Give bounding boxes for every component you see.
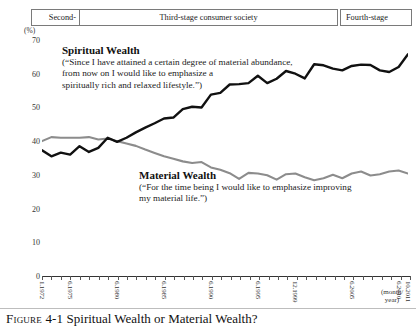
stage-label-second: Second- [49,13,76,22]
x-axis-label-1-1972: 1.1972 [38,281,46,299]
x-axis-tick [202,276,203,280]
x-axis-tick [287,276,288,280]
material-wealth-title: Material Wealth [139,169,352,182]
x-axis-tick [410,276,411,280]
x-axis-tick [325,276,326,280]
y-axis-tick-50: 50 [18,103,40,112]
spiritual-wealth-quote-line3: spiritually rich and relaxed lifestyle.”… [62,80,293,91]
x-axis-labels: 1.19726.19756.19806.19856.19906.199512.1… [42,281,412,309]
x-axis-tick [184,276,185,280]
x-axis-tick [363,276,364,280]
x-axis-tick [372,276,373,280]
x-axis-tick [297,276,298,280]
x-axis-label-12-1999: 12.1999 [291,281,299,302]
x-axis-tick [127,276,128,280]
x-axis-unit-line1: (month/ [370,288,414,296]
x-axis-unit-line2: year) [370,296,414,304]
x-axis-tick [165,276,166,280]
spiritual-wealth-quote-line1: (“Since I have attained a certain degree… [62,57,293,68]
x-axis-tick [212,276,213,280]
x-axis-tick [306,276,307,280]
x-axis-tick [401,276,402,280]
x-axis-tick [391,276,392,280]
x-axis-tick [353,276,354,280]
x-axis-tick [146,276,147,280]
y-axis-tick-10: 10 [18,238,40,247]
x-axis-tick [42,276,43,280]
x-axis-label-6-1985: 6.1985 [160,281,168,299]
x-axis-tick [89,276,90,280]
x-axis-tick [70,276,71,280]
stage-box-second: Second- [31,9,79,26]
material-wealth-quote-line1: (“For the time being I would like to emp… [139,182,352,193]
y-axis-tick-20: 20 [18,204,40,213]
x-axis-tick [382,276,383,280]
x-axis-label-6-1980: 6.1980 [113,281,121,299]
x-axis-label-6-2005: 6.2005 [348,281,356,299]
x-axis-tick [316,276,317,280]
y-axis-ticks: 706050403020100 [14,40,40,276]
y-axis-tick-30: 30 [18,170,40,179]
y-axis-tick-40: 40 [18,137,40,146]
x-axis-tick [155,276,156,280]
x-axis-tick [51,276,52,280]
x-axis-tick [80,276,81,280]
annotation-material-wealth: Material Wealth (“For the time being I w… [139,169,352,205]
y-axis-tick-0: 0 [18,272,40,281]
x-axis-tick [174,276,175,280]
stage-label-third: Third-stage consumer society [159,13,257,22]
figure-caption: Figure 4-1 Spiritual Wealth or Material … [6,311,258,327]
x-axis-tick [231,276,232,280]
spiritual-wealth-title: Spiritual Wealth [62,44,293,57]
x-axis-tick [259,276,260,280]
figure-container: Second- Third-stage consumer society Fou… [0,0,416,336]
stage-label-fourth: Fourth-stage [346,13,388,22]
x-axis-tick [269,276,270,280]
stage-box-fourth: Fourth-stage [340,9,412,26]
x-axis-tick [250,276,251,280]
material-wealth-quote-line2: my material life.”) [139,193,352,204]
y-axis-tick-60: 60 [18,69,40,78]
x-axis-tick [344,276,345,280]
caption-divider [0,308,416,309]
x-axis-label-6-1990: 6.1990 [207,281,215,299]
x-axis-tick [278,276,279,280]
x-axis-tick [61,276,62,280]
stage-box-third: Third-stage consumer society [79,9,338,26]
stage-header-band: Second- Third-stage consumer society Fou… [31,9,412,26]
x-axis-label-6-1975: 6.1975 [66,281,74,299]
figure-number: Figure 4-1 [6,311,63,326]
x-axis-tick [108,276,109,280]
x-axis-tick [193,276,194,280]
figure-title: Spiritual Wealth or Material Wealth? [67,311,258,326]
x-axis-tick [118,276,119,280]
x-axis-tick [335,276,336,280]
x-axis-tick [221,276,222,280]
spiritual-wealth-quote-line2: from now on I would like to emphasize a [62,68,293,79]
x-axis-tick [136,276,137,280]
y-axis-tick-70: 70 [18,36,40,45]
x-axis-unit-label: (month/ year) [370,288,414,304]
x-axis-tick [240,276,241,280]
annotation-spiritual-wealth: Spiritual Wealth (“Since I have attained… [62,44,293,91]
x-axis-tick [99,276,100,280]
y-axis-unit-label: (%) [24,26,35,35]
x-axis-label-6-1995: 6.1995 [254,281,262,299]
